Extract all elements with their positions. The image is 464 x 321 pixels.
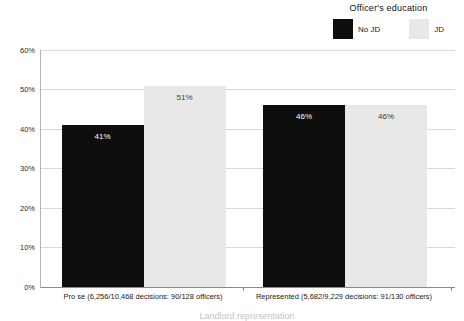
bar-value-label: 41% (62, 132, 144, 141)
y-tick-label-30%: 30% (0, 164, 35, 173)
legend-swatch-jd-icon (409, 19, 429, 39)
legend-label-jd: JD (434, 25, 444, 34)
bar-no-jd-group-2: 46% (263, 105, 345, 287)
y-tick-label-10%: 10% (0, 243, 35, 252)
plot-area: 41%46%51%46% (40, 50, 455, 288)
bar-jd-group-2: 46% (345, 105, 427, 287)
gridline-50% (41, 89, 455, 90)
y-tick-label-0%: 0% (0, 283, 35, 292)
y-tick-label-40%: 40% (0, 125, 35, 134)
legend-swatch-no-jd-icon (333, 19, 353, 39)
y-tick-label-20%: 20% (0, 204, 35, 213)
x-axis-title: Landlord representation (199, 311, 294, 321)
legend: Officer's education No JD JD (333, 3, 444, 39)
legend-title: Officer's education (350, 3, 428, 13)
bar-value-label: 46% (345, 112, 427, 121)
x-axis-boundary-tick-2 (451, 287, 452, 291)
legend-item-no-jd: No JD (333, 19, 380, 39)
bar-jd-group-1: 51% (144, 86, 226, 287)
category-label-pro-se: Pro se (6,256/10,468 decisions: 90/128 o… (63, 292, 222, 301)
legend-item-jd: JD (409, 19, 444, 39)
bar-value-label: 51% (144, 93, 226, 102)
legend-label-no-jd: No JD (358, 25, 380, 34)
legend-items: No JD JD (333, 19, 444, 39)
category-label-represented: Represented (5,682/9,229 decisions: 91/1… (256, 292, 432, 301)
bar-no-jd-group-1: 41% (62, 125, 144, 287)
y-tick-label-60%: 60% (0, 46, 35, 55)
y-tick-label-50%: 50% (0, 85, 35, 94)
x-axis-boundary-tick-1 (243, 287, 244, 291)
bar-value-label: 46% (263, 112, 345, 121)
gridline-60% (41, 50, 455, 51)
